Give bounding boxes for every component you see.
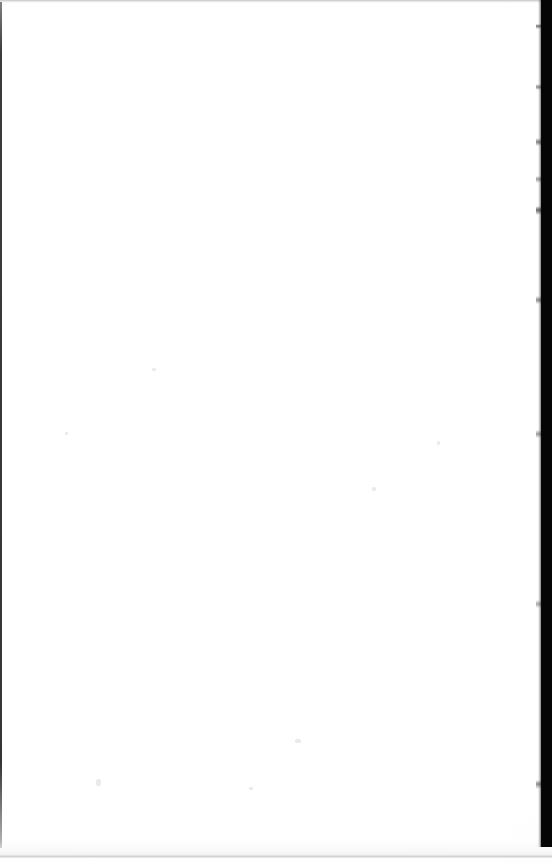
scanner-bed-right-strip [541, 0, 552, 847]
scan-speck [152, 368, 156, 371]
scan-speck [437, 441, 440, 445]
page-edge-left [0, 2, 2, 848]
page-edge-bottom [0, 855, 552, 858]
scan-speck [96, 779, 101, 786]
content-area [26, 30, 518, 827]
scanned-page-viewport [0, 0, 552, 863]
scan-speck [65, 432, 68, 435]
scan-speck [249, 787, 253, 790]
scan-speck [372, 487, 376, 491]
page-edge-top [0, 0, 552, 3]
page-bottom-shadow [0, 840, 552, 856]
scan-speck [295, 739, 301, 743]
